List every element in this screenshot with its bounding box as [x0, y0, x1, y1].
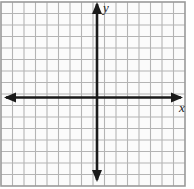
- x-axis-label: x: [179, 101, 185, 114]
- coordinate-grid-svg: [0, 0, 194, 189]
- coordinate-plane-figure: y x: [0, 0, 194, 189]
- y-axis-label: y: [103, 1, 109, 14]
